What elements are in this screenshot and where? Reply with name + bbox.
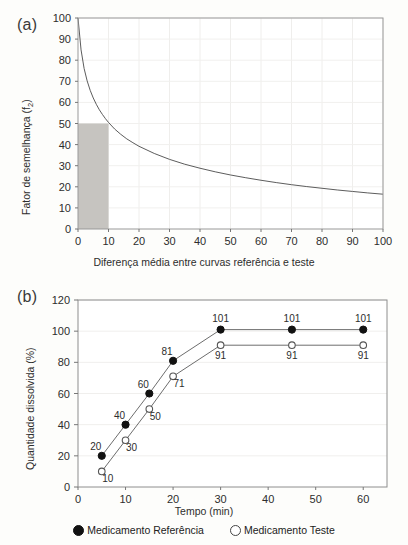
legend-item-teste: Medicamento Teste — [230, 524, 335, 536]
panel-b-marker-teste — [217, 342, 224, 349]
panel-a-x-axis-title: Diferença média entre curvas referência … — [0, 256, 408, 268]
panel-a-y-axis-title-paren: ) — [20, 99, 32, 103]
panel-b-y-tick-label: 80 — [58, 356, 70, 368]
filled-circle-icon — [73, 525, 84, 536]
legend-item-referencia: Medicamento Referência — [73, 524, 204, 536]
legend-label-teste: Medicamento Teste — [244, 524, 335, 536]
panel-b-marker-teste — [360, 342, 367, 349]
panel-a: (a) 010203040506070809010001020304050607… — [0, 0, 408, 278]
panel-a-y-tick-label: 60 — [59, 96, 71, 108]
panel-b-data-label-teste: 30 — [126, 442, 138, 453]
panel-a-y-tick-label: 40 — [59, 139, 71, 151]
panel-a-y-axis-title-subscript: 2 — [26, 103, 35, 107]
panel-a-y-tick-label: 70 — [59, 75, 71, 87]
panel-a-x-tick-label: 40 — [194, 235, 206, 247]
panel-b-x-tick-label: 50 — [310, 493, 322, 505]
panel-a-y-tick-label: 0 — [65, 223, 71, 235]
panel-b-content: 2040608110110110110305071919191010203040… — [52, 294, 387, 505]
panel-b-data-label-referencia: 60 — [138, 379, 150, 390]
panel-b-data-label-teste: 10 — [102, 473, 114, 484]
panel-b-marker-referencia — [122, 421, 129, 428]
panel-a-content: 0102030405060708090100010203040506070809… — [53, 12, 393, 247]
panel-b-data-label-referencia: 81 — [162, 346, 174, 357]
panel-a-x-tick-label: 90 — [346, 235, 358, 247]
panel-a-x-tick-label: 70 — [285, 235, 297, 247]
panel-a-x-tick-label: 10 — [102, 235, 114, 247]
panel-b-y-tick-label: 0 — [64, 481, 70, 493]
panel-b-marker-teste — [289, 342, 296, 349]
panel-b-y-tick-label: 60 — [58, 388, 70, 400]
panel-a-y-tick-label: 100 — [53, 12, 71, 24]
panel-a-y-tick-label: 30 — [59, 160, 71, 172]
panel-b-x-tick-label: 60 — [357, 493, 369, 505]
panel-b-y-tick-label: 120 — [52, 294, 70, 306]
panel-b-marker-referencia — [98, 452, 105, 459]
panel-b-marker-referencia — [169, 357, 176, 364]
panel-a-y-tick-label: 50 — [59, 118, 71, 130]
panel-a-y-tick-label: 90 — [59, 33, 71, 45]
open-circle-icon — [230, 525, 241, 536]
panel-a-plot: 0102030405060708090100010203040506070809… — [0, 0, 408, 278]
panel-b-data-label-referencia: 20 — [90, 441, 102, 452]
panel-a-x-tick-label: 60 — [255, 235, 267, 247]
panel-b-marker-referencia — [288, 326, 295, 333]
panel-b-data-label-referencia: 40 — [114, 410, 126, 421]
panel-a-y-tick-label: 20 — [59, 181, 71, 193]
panel-b-x-tick-label: 20 — [167, 493, 179, 505]
panel-a-shaded-region — [78, 124, 109, 230]
panel-b-data-label-referencia: 101 — [355, 313, 372, 324]
panel-a-x-tick-label: 80 — [316, 235, 328, 247]
panel-b-x-tick-label: 0 — [75, 493, 81, 505]
panel-b-y-tick-label: 20 — [58, 450, 70, 462]
panel-a-x-tick-label: 100 — [374, 235, 392, 247]
panel-b-y-tick-label: 100 — [52, 325, 70, 337]
panel-b-x-tick-label: 10 — [119, 493, 131, 505]
panel-a-y-axis-title-text: Fator de semelhança (f — [20, 107, 32, 215]
panel-b-data-label-referencia: 101 — [284, 313, 301, 324]
legend: Medicamento Referência Medicamento Teste — [0, 524, 408, 536]
panel-b-marker-referencia — [146, 390, 153, 397]
panel-a-x-tick-label: 20 — [133, 235, 145, 247]
panel-a-y-axis-title: Fator de semelhança (f2) — [20, 99, 35, 215]
panel-b-data-label-teste: 50 — [150, 411, 162, 422]
panel-a-x-tick-label: 0 — [75, 235, 81, 247]
panel-b-data-label-teste: 71 — [174, 378, 186, 389]
legend-label-referencia: Medicamento Referência — [87, 524, 204, 536]
panel-b-x-tick-label: 30 — [214, 493, 226, 505]
panel-b-x-axis-title: Tempo (min) — [0, 505, 408, 517]
panel-b-x-tick-label: 40 — [262, 493, 274, 505]
panel-b-y-axis-title: Quantidade dissolvida (%) — [24, 347, 36, 470]
panel-a-y-tick-label: 80 — [59, 54, 71, 66]
panel-b-data-label-teste: 91 — [286, 350, 298, 361]
panel-b-data-label-teste: 91 — [215, 350, 227, 361]
panel-b-y-tick-label: 40 — [58, 419, 70, 431]
panel-b: (b) 204060811011011011030507191919101020… — [0, 278, 408, 545]
panel-b-data-label-teste: 91 — [358, 350, 370, 361]
panel-b-marker-referencia — [360, 326, 367, 333]
panel-b-data-label-referencia: 101 — [212, 313, 229, 324]
panel-b-marker-referencia — [217, 326, 224, 333]
panel-a-x-tick-label: 30 — [163, 235, 175, 247]
panel-a-x-tick-label: 50 — [224, 235, 236, 247]
panel-a-y-tick-label: 10 — [59, 202, 71, 214]
